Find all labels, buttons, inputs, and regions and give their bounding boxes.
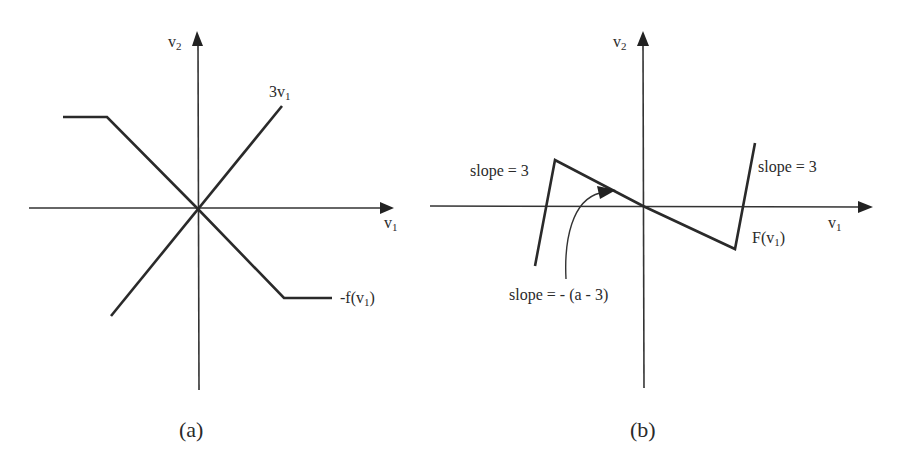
panel-b-right-slope-label: slope = 3 <box>758 158 817 176</box>
panel-a-3v1-line <box>111 106 282 316</box>
panel-a-3v1-label: 3v1 <box>269 83 291 102</box>
diagram-canvas: v2 v1 3v1 -f(v1) (a) v2 v1 slope = 3 slo… <box>0 0 897 463</box>
panel-b: v2 v1 slope = 3 slope = 3 slope = - (a -… <box>430 31 873 442</box>
panel-b-F-curve <box>535 143 755 266</box>
panel-b-x-arrow-icon <box>858 201 873 213</box>
panel-b-x-axis-label: v1 <box>828 214 842 233</box>
panel-b-y-axis <box>643 44 644 388</box>
panel-b-left-slope-label: slope = 3 <box>470 162 529 180</box>
panel-a-neg-f-label: -f(v1) <box>340 289 375 308</box>
panel-b-middle-slope-label: slope = - (a - 3) <box>509 286 608 304</box>
panel-b-y-arrow-icon <box>637 31 649 46</box>
panel-a-x-arrow-icon <box>380 202 394 214</box>
panel-a-x-axis-label: v1 <box>384 214 398 233</box>
panel-a-y-arrow-icon <box>192 31 203 46</box>
panel-a: v2 v1 3v1 -f(v1) (a) <box>29 31 398 442</box>
panel-b-caption: (b) <box>630 417 656 442</box>
panel-a-caption: (a) <box>179 417 203 442</box>
panel-b-y-axis-label: v2 <box>613 33 627 52</box>
panel-a-y-axis-label: v2 <box>168 33 182 52</box>
panel-a-y-axis <box>198 44 199 390</box>
panel-b-F-label: F(v1) <box>752 229 785 248</box>
